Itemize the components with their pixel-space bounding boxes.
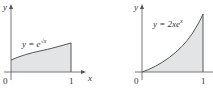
left-tick-1: 1 xyxy=(69,76,74,86)
left-shaded-area xyxy=(11,43,71,72)
left-plot: y x 0 1 y = e√x xyxy=(2,2,92,86)
left-equation: y = e√x xyxy=(21,38,47,49)
right-y-label: y xyxy=(133,2,138,12)
left-tick-0: 0 xyxy=(3,76,8,86)
left-y-arrow-icon xyxy=(9,4,13,9)
right-y-arrow-icon xyxy=(140,4,144,9)
left-x-arrow-icon xyxy=(81,70,86,74)
right-equation: y = 2xex xyxy=(152,18,183,29)
right-tick-0: 0 xyxy=(134,76,139,86)
right-tick-1: 1 xyxy=(201,76,206,86)
left-y-label: y xyxy=(2,2,7,12)
right-plot: y 0 1 y = 2xex xyxy=(133,2,213,86)
figure: y x 0 1 y = e√x y 0 1 y = 2xex xyxy=(0,0,213,100)
left-x-label: x xyxy=(87,73,92,83)
